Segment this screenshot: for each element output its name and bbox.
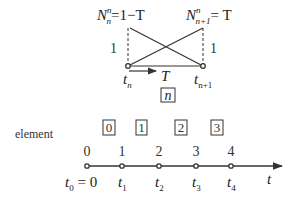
node-number-3: 3 (193, 144, 200, 159)
element-row-label: element (15, 127, 54, 141)
axis-node-3 (194, 164, 198, 168)
time-label-3: t3 (192, 174, 201, 193)
svg-text:2: 2 (178, 120, 185, 135)
time-axis-label: t (267, 171, 272, 187)
element-box-1: 1 (136, 120, 147, 135)
time-label-4: t4 (227, 174, 236, 193)
left-node-time-label: tn (123, 71, 132, 90)
time-label-0: t0 = 0 (65, 174, 97, 193)
axis-node-1 (120, 164, 124, 168)
left-height-label: 1 (110, 41, 117, 56)
left-basis-label: Nnn=1−T (96, 5, 145, 26)
time-axis-mesh: element 0 1 2 3 0 1 2 3 4 (15, 120, 282, 193)
local-coordinate-label: T (161, 68, 171, 84)
svg-text:1: 1 (138, 120, 145, 135)
element-box-0: 0 (103, 120, 115, 135)
right-node (201, 64, 206, 69)
element-box-2: 2 (175, 120, 187, 135)
axis-node-2 (157, 164, 161, 168)
time-label-1: t1 (118, 174, 127, 193)
right-basis-label: Nnn+1= T (185, 5, 232, 26)
right-height-label: 1 (210, 41, 217, 56)
node-number-0: 0 (84, 144, 91, 159)
element-box-3: 3 (211, 120, 223, 135)
time-label-2: t2 (155, 174, 164, 193)
element-detail: Nnn=1−T Nnn+1= T 1 1 T tn tn+1 n (96, 5, 232, 103)
node-number-2: 2 (156, 144, 163, 159)
node-number-4: 4 (228, 144, 235, 159)
svg-text:3: 3 (214, 120, 221, 135)
node-number-1: 1 (119, 144, 126, 159)
axis-node-4 (229, 164, 233, 168)
left-node (126, 64, 131, 69)
axis-node-0 (85, 164, 89, 168)
element-number-label: n (165, 88, 172, 103)
right-node-time-label: tn+1 (194, 71, 212, 90)
finite-element-time-diagram: Nnn=1−T Nnn+1= T 1 1 T tn tn+1 n (0, 0, 293, 206)
svg-text:0: 0 (106, 120, 113, 135)
